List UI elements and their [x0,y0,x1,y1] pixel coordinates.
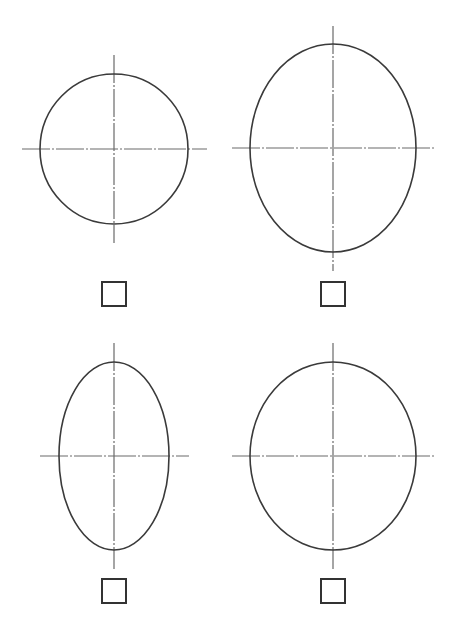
figure-slightly-tall-ellipse [232,343,434,569]
figure-narrow-ellipse [40,343,189,569]
answer-checkbox-4[interactable] [320,578,346,604]
answer-checkbox-2[interactable] [320,281,346,307]
diagram-canvas [0,0,452,636]
figure-circle [22,55,207,243]
answer-checkbox-3[interactable] [101,578,127,604]
answer-checkbox-1[interactable] [101,281,127,307]
figure-tall-wide-ellipse [232,26,434,271]
